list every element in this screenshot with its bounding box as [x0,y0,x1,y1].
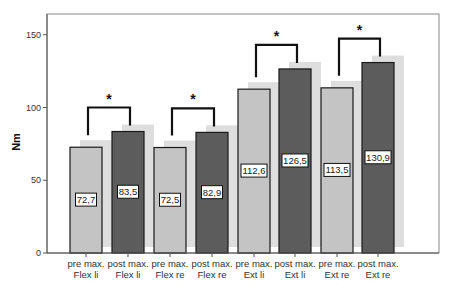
x-tick-label: pre max. [68,258,105,269]
x-tick-label: post max. [357,258,398,269]
y-tick-label: 150 [26,30,41,40]
value-label: 83,5 [119,186,138,197]
x-tick-label: Flex li [116,269,141,280]
value-label: 112,6 [242,165,265,176]
significance-star: * [357,22,363,38]
x-tick-label: Flex li [74,269,99,280]
x-tick-label: pre max. [152,258,189,269]
x-tick-label: Ext re [325,269,350,280]
y-tick-label: 0 [36,248,41,258]
y-axis: 050100150 [26,14,47,258]
x-tick-label: Ext re [366,269,391,280]
x-tick-label: post max. [107,258,148,269]
significance-star: * [190,91,196,107]
value-label: 72,5 [161,194,180,205]
x-tick-label: Ext li [244,269,265,280]
x-tick-label: Flex re [197,269,226,280]
value-label: 82,9 [203,187,222,198]
x-tick-label: pre max. [236,258,273,269]
bar-chart: 72,783,572,582,9112,6126,5113,5130,9 ***… [0,0,453,288]
significance-star: * [274,28,280,44]
value-label: 130,9 [366,152,390,163]
x-tick-label: Ext li [285,269,306,280]
significance-star: * [106,91,112,107]
y-tick-label: 100 [26,103,41,113]
value-label: 126,5 [283,155,307,166]
value-label: 72,7 [77,194,96,205]
x-axis: pre max.Flex lipost max.Flex lipre max.F… [47,253,439,280]
x-tick-label: post max. [191,258,232,269]
y-tick-label: 50 [31,175,41,185]
x-tick-label: pre max. [319,258,356,269]
y-axis-label: Nm [10,133,22,151]
value-label: 113,5 [325,164,348,175]
x-tick-label: post max. [274,258,315,269]
x-tick-label: Flex re [155,269,184,280]
